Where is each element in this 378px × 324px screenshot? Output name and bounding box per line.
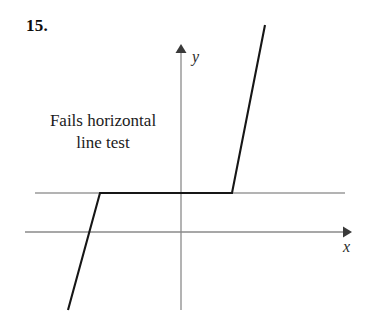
y-axis-arrowhead (176, 44, 187, 53)
x-axis-arrowhead (343, 227, 352, 238)
function-curve (68, 25, 265, 310)
exercise-figure: 15. Fails horizontal line test y x (0, 0, 378, 324)
plot-canvas (0, 0, 378, 324)
axes-group (25, 44, 352, 310)
chart-series-group (35, 25, 345, 310)
